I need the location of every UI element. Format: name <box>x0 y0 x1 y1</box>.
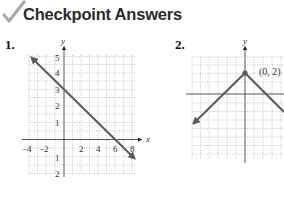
vertex-point <box>242 70 247 75</box>
graph-2: y (0, 2) <box>0 0 284 197</box>
vertex-label: (0, 2) <box>259 66 281 78</box>
y-axis-label-2: y <box>242 36 247 46</box>
data-line-2 <box>195 73 284 122</box>
